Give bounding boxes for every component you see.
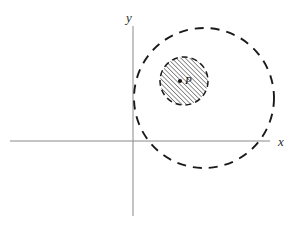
point-label-p: P [184, 74, 192, 86]
outer-dashed-circle [134, 28, 274, 168]
geometry-diagram: P y x [0, 0, 295, 239]
x-axis-label: x [277, 134, 284, 149]
y-axis-label: y [124, 10, 132, 25]
figure-root: P y x [0, 0, 295, 239]
point-marker-dot [178, 79, 182, 83]
